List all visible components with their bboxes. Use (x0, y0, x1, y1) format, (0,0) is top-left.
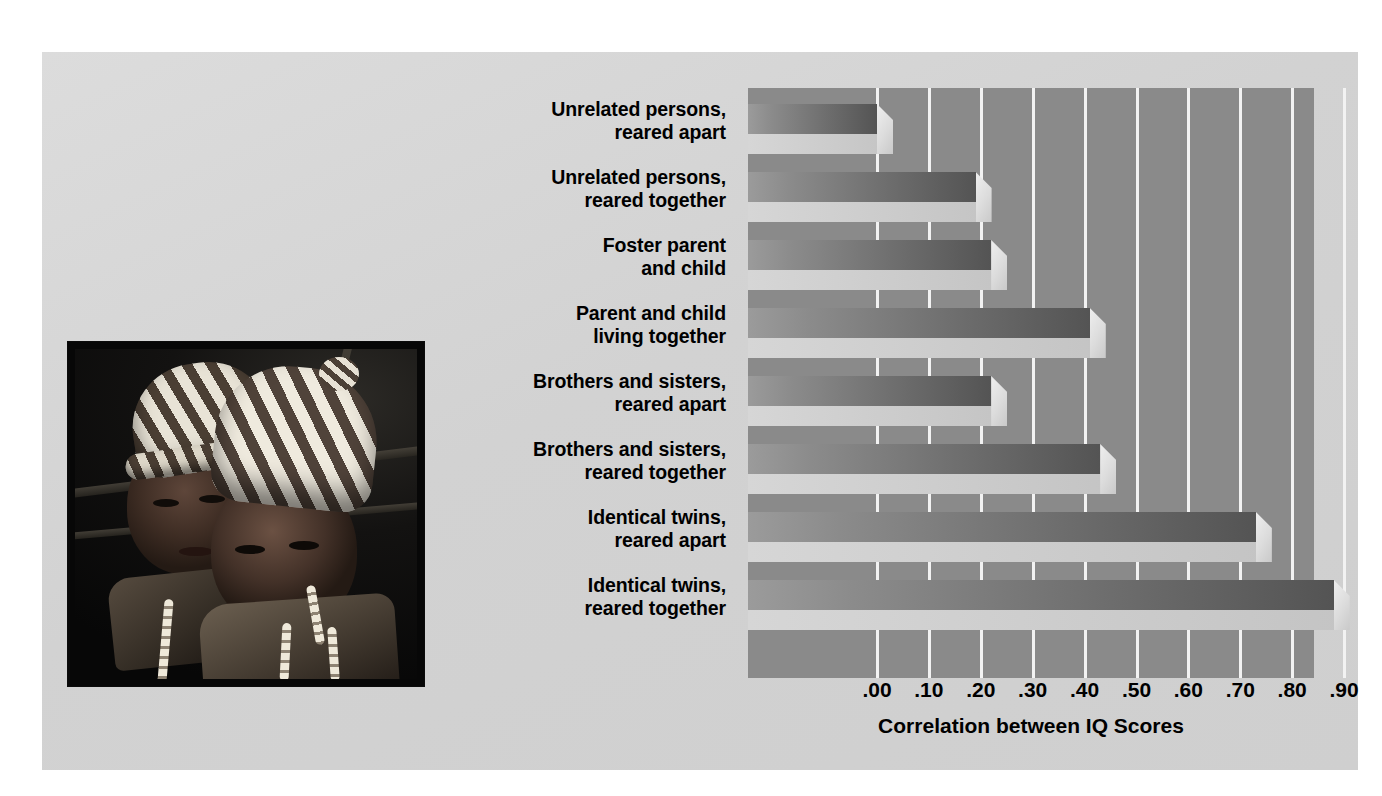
category-label-line2: reared apart (442, 529, 726, 552)
category-label: Identical twins,reared apart (442, 506, 726, 552)
bar-row (748, 504, 1314, 572)
category-label-line1: Foster parent (442, 234, 726, 257)
category-label-line1: Identical twins, (442, 506, 726, 529)
back-infant-eye (199, 495, 225, 503)
bar (748, 512, 1256, 564)
bar-front-face (748, 474, 1114, 494)
bar (748, 308, 1090, 360)
gridline-p90 (1343, 88, 1346, 678)
category-label-line1: Unrelated persons, (442, 98, 726, 121)
category-label: Brothers and sisters,reared together (442, 438, 726, 484)
x-tick-label: .30 (1004, 678, 1062, 702)
front-infant-eye (289, 541, 319, 550)
front-infant-cap-knot (319, 357, 359, 391)
bar-top-face (748, 444, 1100, 474)
category-label: Identical twins,reared together (442, 574, 726, 620)
back-infant-eye (153, 499, 179, 507)
bar-row (748, 96, 1314, 164)
x-axis-ticks: .00.10.20.30.40.50.60.70.80.90 (748, 678, 1314, 718)
bar-front-face (748, 134, 891, 154)
x-tick-label: .70 (1211, 678, 1269, 702)
x-tick-label: .10 (900, 678, 958, 702)
category-label-line2: reared apart (442, 121, 726, 144)
bar-top-face (748, 172, 976, 202)
bar-chart-plot-area (748, 88, 1314, 678)
bar-end-cap (1090, 308, 1106, 358)
category-label: Unrelated persons,reared apart (442, 98, 726, 144)
bar-front-face (748, 202, 990, 222)
x-tick-label: .90 (1315, 678, 1373, 702)
bar-row (748, 232, 1314, 300)
bar-row (748, 436, 1314, 504)
front-infant-eye (235, 545, 265, 554)
bar-end-cap (991, 240, 1007, 290)
bar (748, 104, 877, 156)
category-label: Parent and childliving together (442, 302, 726, 348)
x-tick-label: .20 (952, 678, 1010, 702)
bar (748, 580, 1334, 632)
bar-end-cap (1334, 580, 1350, 630)
category-label-line1: Parent and child (442, 302, 726, 325)
bar (748, 444, 1100, 496)
bar-row (748, 572, 1314, 640)
bar (748, 240, 991, 292)
bar (748, 376, 991, 428)
bar-end-cap (976, 172, 992, 222)
bar-top-face (748, 376, 991, 406)
x-axis-title: Correlation between IQ Scores (748, 714, 1314, 738)
bar-row (748, 300, 1314, 368)
bar-front-face (748, 406, 1005, 426)
bar-top-face (748, 308, 1090, 338)
bar-end-cap (877, 104, 893, 154)
bar-end-cap (1256, 512, 1272, 562)
bar-front-face (748, 542, 1270, 562)
bar-top-face (748, 512, 1256, 542)
category-label-line2: and child (442, 257, 726, 280)
category-label-line2: reared apart (442, 393, 726, 416)
category-label-line1: Brothers and sisters, (442, 370, 726, 393)
category-label-line1: Brothers and sisters, (442, 438, 726, 461)
front-infant-scarf (198, 592, 400, 679)
category-label-line2: living together (442, 325, 726, 348)
category-label: Foster parentand child (442, 234, 726, 280)
bar-front-face (748, 270, 1005, 290)
x-tick-label: .60 (1159, 678, 1217, 702)
bar-top-face (748, 580, 1334, 610)
bar-front-face (748, 610, 1348, 630)
figure-card: Unrelated persons,reared apartUnrelated … (42, 52, 1358, 770)
photograph-frame (68, 342, 424, 686)
category-axis-labels: Unrelated persons,reared apartUnrelated … (442, 88, 738, 678)
category-label-line1: Unrelated persons, (442, 166, 726, 189)
category-label-line2: reared together (442, 189, 726, 212)
x-tick-label: .50 (1108, 678, 1166, 702)
bar (748, 172, 976, 224)
category-label-line1: Identical twins, (442, 574, 726, 597)
bar-row (748, 164, 1314, 232)
twins-photograph (75, 349, 417, 679)
category-label: Unrelated persons,reared together (442, 166, 726, 212)
bar-top-face (748, 240, 991, 270)
category-label: Brothers and sisters,reared apart (442, 370, 726, 416)
bar-end-cap (991, 376, 1007, 426)
back-infant-mouth (179, 547, 213, 556)
x-tick-label: .40 (1056, 678, 1114, 702)
bar-row (748, 368, 1314, 436)
category-label-line2: reared together (442, 597, 726, 620)
category-label-line2: reared together (442, 461, 726, 484)
bar-front-face (748, 338, 1104, 358)
x-tick-label: .80 (1263, 678, 1321, 702)
x-tick-label: .00 (848, 678, 906, 702)
bar-end-cap (1100, 444, 1116, 494)
bar-top-face (748, 104, 877, 134)
